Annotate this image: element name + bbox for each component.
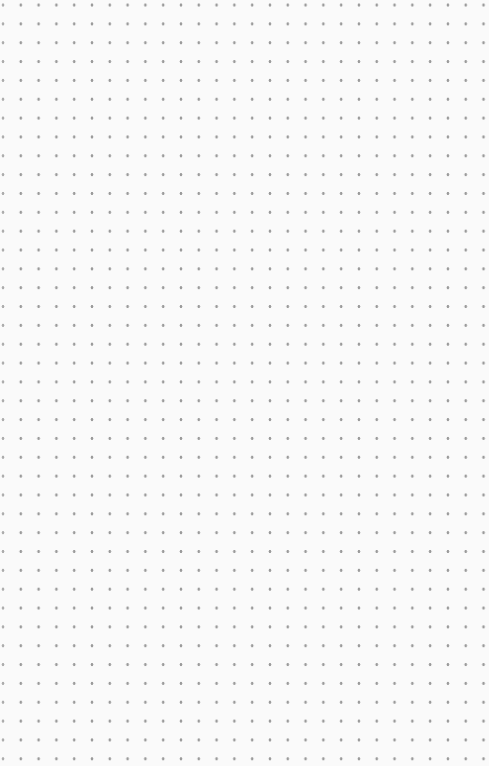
dot-grid-canvas[interactable] — [0, 0, 489, 766]
